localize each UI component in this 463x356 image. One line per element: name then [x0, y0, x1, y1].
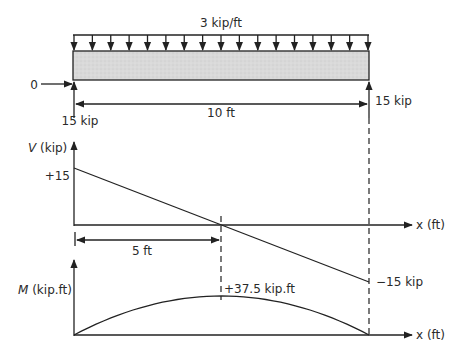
shear-x-axis-label: x (ft)	[416, 218, 445, 232]
half-span-label: 5 ft	[132, 244, 152, 258]
beam-diagram: 3 kip/ft 0 15 kip 15 kip 10 ft V (kip) x…	[0, 0, 463, 356]
left-horizontal-reaction-label: 0	[30, 78, 38, 92]
load-label: 3 kip/ft	[200, 16, 242, 30]
moment-x-axis-label: x (ft)	[416, 328, 445, 342]
moment-curve	[74, 296, 369, 335]
beam	[73, 51, 369, 80]
moment-axis-label: M (kip.ft)	[18, 283, 72, 297]
span-label: 10 ft	[207, 106, 235, 120]
shear-axis-label: V (kip)	[28, 141, 67, 155]
moment-peak-label: +37.5 kip.ft	[224, 282, 295, 296]
right-vertical-reaction-label: 15 kip	[375, 94, 412, 108]
shear-end-value-label: −15 kip	[376, 275, 423, 289]
left-vertical-reaction-label: 15 kip	[62, 114, 99, 128]
shear-start-value-label: +15	[45, 169, 70, 183]
distributed-load-arrows	[74, 35, 368, 50]
